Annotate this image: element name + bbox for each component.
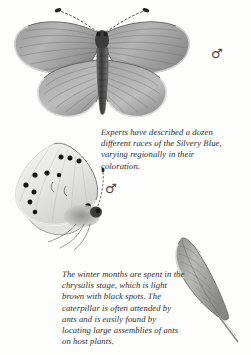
field-guide-page: ♂ xyxy=(0,0,251,355)
butterfly-dorsal-illustration xyxy=(8,4,196,126)
caption-chrysalis-and-caterpillar: The winter months are spent in the chrys… xyxy=(62,269,186,347)
caption-silvery-blue-races: Experts have described a dozen different… xyxy=(101,127,227,172)
butterfly-body xyxy=(95,30,109,115)
chrysalis-stem xyxy=(220,318,238,342)
male-symbol-ventral: ♂ xyxy=(105,182,117,195)
male-symbol-dorsal: ♂ xyxy=(211,47,223,60)
ventral-antenna xyxy=(98,172,103,206)
ventral-eye xyxy=(96,209,101,214)
